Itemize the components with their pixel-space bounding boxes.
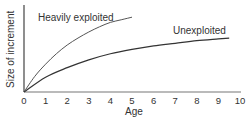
x-tick-label: 8 — [194, 95, 199, 106]
x-tick-label: 0 — [21, 95, 26, 106]
curve-unexploited — [24, 38, 229, 92]
x-axis-title: Age — [125, 106, 143, 117]
series-label-unexploited: Unexploited — [173, 25, 226, 36]
series-label-heavily-exploited: Heavily exploited — [38, 12, 114, 23]
x-tick-label: 3 — [86, 95, 91, 106]
y-axis-title: Size of increment — [5, 11, 16, 88]
x-tick-labels: 012345678910 — [21, 95, 245, 106]
x-tick-label: 2 — [65, 95, 70, 106]
x-tick-label: 1 — [43, 95, 48, 106]
x-tick-label: 5 — [129, 95, 134, 106]
x-tick-label: 6 — [151, 95, 156, 106]
growth-chart: 012345678910 Heavily exploited Unexploit… — [0, 0, 248, 120]
x-tick-label: 7 — [173, 95, 178, 106]
x-tick-label: 10 — [235, 95, 246, 106]
x-tick-label: 9 — [216, 95, 221, 106]
x-tick-label: 4 — [108, 95, 113, 106]
